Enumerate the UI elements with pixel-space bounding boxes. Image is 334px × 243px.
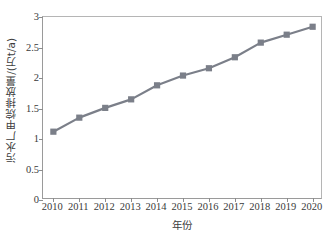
data-line-series-1 [53,27,312,132]
x-axis-tick-label: 2015 [172,201,193,212]
data-point-marker [154,82,160,88]
x-axis-tick-label: 2013 [120,201,141,212]
x-axis-tick-label: 2017 [223,201,244,212]
x-axis-tick-label: 2016 [197,201,218,212]
x-axis-tick-label: 2020 [301,201,322,212]
y-axis-tick-mark [39,109,43,110]
x-axis-tick-label: 2018 [249,201,270,212]
x-axis-title: 年份 [42,217,322,232]
data-point-marker [284,32,290,38]
data-point-marker [310,24,316,30]
x-axis-tick-label: 2014 [146,201,167,212]
data-point-marker [128,96,134,102]
y-axis-tick-label: 2 [14,72,42,83]
data-marker-group [50,24,315,135]
y-axis-tick-mark [39,78,43,79]
y-axis-tick-label: 2.5 [14,41,42,52]
data-point-marker [102,105,108,111]
x-axis-tick-labels: 2010201120122013201420152016201720182019… [42,201,322,217]
y-axis-tick-labels: 00.511.522.53 [14,0,42,243]
y-axis-tick-mark [39,170,43,171]
data-point-marker [180,72,186,78]
y-axis-tick-mark [39,139,43,140]
y-axis-tick-label: 0 [14,194,42,205]
x-axis-tick-label: 2019 [275,201,296,212]
plot-area [42,16,322,199]
y-axis-tick-mark [39,17,43,18]
x-axis-tick-label: 2010 [42,201,63,212]
y-axis-tick-mark [39,48,43,49]
y-axis-tick-label: 1 [14,133,42,144]
data-point-marker [206,65,212,71]
series-line-chart [43,17,323,200]
data-point-marker [76,115,82,121]
y-axis-tick-label: 0.5 [14,163,42,174]
chart-figure: 污水厂甲烷排放量/(万t/a) 00.511.522.53 2010201120… [0,0,334,243]
y-axis-tick-label: 3 [14,11,42,22]
x-axis-tick-label: 2012 [94,201,115,212]
data-point-marker [50,129,56,135]
x-axis-tick-label: 2011 [68,201,89,212]
data-point-marker [258,40,264,46]
y-axis-tick-label: 1.5 [14,102,42,113]
data-point-marker [232,54,238,60]
